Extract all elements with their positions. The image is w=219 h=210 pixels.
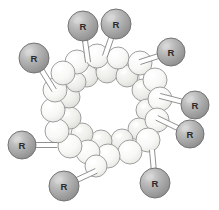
molecule-diagram: RRRRRRRRR: [0, 0, 219, 210]
ring-sphere: [107, 47, 129, 69]
r-group-bottom-right: R: [140, 168, 170, 198]
r-group-right-upper: R: [181, 91, 209, 119]
ring-sphere: [51, 61, 75, 85]
r-group-upper-right: R: [157, 38, 185, 66]
r-group-left-lower: R: [8, 131, 36, 159]
bond: [150, 150, 157, 170]
r-group-bottom-left: R: [49, 171, 79, 201]
r-group-top-right: R: [101, 9, 131, 39]
r-group-top-left: R: [68, 11, 98, 41]
r-group-upper-left: R: [19, 43, 49, 73]
molecular-figure: RRRRRRRRR: [0, 0, 219, 210]
ring-sphere: [118, 140, 142, 164]
bond: [35, 143, 58, 148]
ring-sphere: [45, 119, 69, 143]
r-group-right-lower: R: [176, 120, 204, 148]
